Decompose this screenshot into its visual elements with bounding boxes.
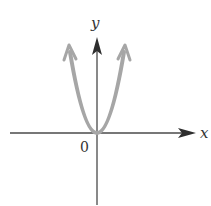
x-axis-label: x — [200, 124, 209, 142]
y-axis-label: y — [90, 14, 100, 32]
parabola-graph: y x 0 — [0, 0, 211, 206]
origin-label: 0 — [80, 139, 89, 155]
y-axis — [92, 37, 102, 205]
